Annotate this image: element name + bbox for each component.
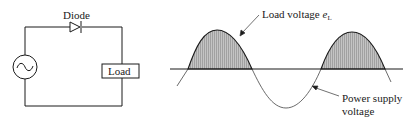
load-voltage-hump-2 (321, 32, 385, 69)
load-voltage-label: Load voltage eL (262, 8, 332, 22)
diode-icon (70, 21, 81, 33)
half-wave-rectifier-diagram: Diode Load Load voltage eL Power supply … (0, 0, 413, 121)
diode-label: Diode (63, 9, 90, 21)
circuit (13, 21, 139, 106)
supply-voltage-label-line2: voltage (342, 105, 374, 117)
load-voltage-leader (240, 15, 259, 36)
load-label: Load (108, 65, 131, 77)
ac-source-icon (13, 55, 37, 79)
supply-voltage-label-line1: Power supply (342, 92, 403, 104)
supply-voltage-leader (312, 86, 339, 96)
load-voltage-hump-1 (188, 30, 252, 69)
